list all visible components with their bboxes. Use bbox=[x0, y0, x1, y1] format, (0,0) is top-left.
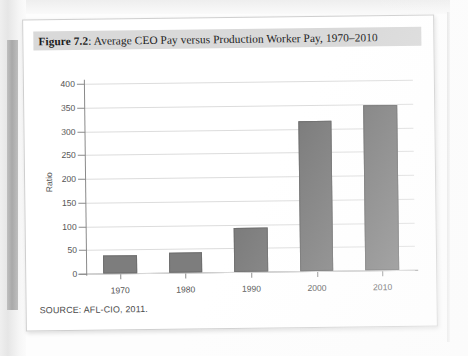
page-spine-shadow bbox=[7, 40, 18, 310]
gridline bbox=[85, 80, 413, 85]
x-tick-mark bbox=[382, 271, 383, 276]
y-tick: 300 bbox=[24, 131, 75, 132]
bar-2000 bbox=[298, 121, 333, 271]
y-tick-label: 300 bbox=[33, 126, 75, 137]
y-tick: 0 bbox=[26, 274, 77, 275]
y-tick-mark bbox=[77, 84, 85, 85]
y-tick-mark bbox=[79, 274, 87, 275]
y-tick-mark bbox=[77, 108, 85, 109]
x-tick-label-1990: 1990 bbox=[221, 283, 281, 294]
source-note: SOURCE: AFL-CIO, 2011. bbox=[40, 304, 148, 315]
y-tick-mark bbox=[78, 155, 86, 156]
y-tick: 400 bbox=[24, 84, 75, 85]
y-tick-label: 200 bbox=[34, 174, 76, 185]
bar-2010 bbox=[364, 105, 399, 271]
x-tick-mark bbox=[186, 274, 187, 279]
page-right-edge-line bbox=[447, 12, 450, 342]
x-tick-mark bbox=[120, 274, 121, 279]
chart-plot-area: Ratio 050100150200250300350400 197019801… bbox=[23, 16, 437, 331]
y-tick: 100 bbox=[26, 226, 77, 227]
bar-1980 bbox=[169, 252, 203, 272]
y-tick-mark bbox=[79, 226, 87, 227]
bar-1990 bbox=[234, 227, 268, 272]
y-tick-label: 150 bbox=[34, 198, 76, 209]
y-tick-label: 50 bbox=[35, 245, 77, 256]
y-tick-mark bbox=[78, 203, 86, 204]
y-tick: 250 bbox=[25, 155, 76, 156]
page-right-margin bbox=[450, 0, 468, 356]
bar-1970 bbox=[103, 255, 137, 273]
x-tick-label-2010: 2010 bbox=[353, 282, 413, 293]
x-tick-label-2000: 2000 bbox=[287, 283, 347, 294]
page-top-edge bbox=[0, 0, 468, 14]
y-tick-label: 350 bbox=[33, 103, 75, 114]
y-tick: 150 bbox=[25, 203, 76, 204]
x-tick-mark bbox=[251, 273, 252, 278]
figure-box: Figure 7.2: Average CEO Pay versus Produ… bbox=[22, 14, 438, 331]
y-tick-mark bbox=[77, 131, 85, 132]
y-tick-mark bbox=[79, 250, 87, 251]
x-tick-mark bbox=[317, 272, 318, 277]
y-tick: 50 bbox=[26, 250, 77, 251]
y-tick-mark bbox=[78, 179, 86, 180]
y-tick-label: 0 bbox=[35, 269, 77, 280]
x-tick-label-1970: 1970 bbox=[90, 285, 150, 296]
y-tick: 200 bbox=[25, 179, 76, 180]
y-tick-label: 400 bbox=[33, 79, 75, 90]
x-tick-label-1980: 1980 bbox=[156, 284, 216, 295]
y-tick: 350 bbox=[24, 108, 75, 109]
y-tick-label: 100 bbox=[35, 221, 77, 232]
y-tick-label: 250 bbox=[34, 150, 76, 161]
